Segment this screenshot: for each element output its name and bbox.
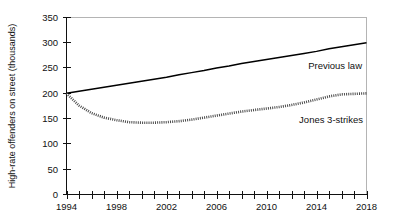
x-tick-label-1998: 1998 bbox=[106, 201, 127, 212]
x-tick-label-2010: 2010 bbox=[256, 201, 277, 212]
x-tick-label-2006: 2006 bbox=[206, 201, 227, 212]
chart-container: 0 50 100 150 200 250 300 350 High-rate o… bbox=[0, 0, 395, 223]
line-chart: 0 50 100 150 200 250 300 350 High-rate o… bbox=[0, 0, 395, 223]
x-tick-label-2014: 2014 bbox=[306, 201, 327, 212]
y-axis-title: High-rate offenders on street (thousands… bbox=[7, 24, 17, 188]
chart-background bbox=[0, 0, 395, 223]
y-tick-label-350: 350 bbox=[42, 12, 58, 23]
y-tick-label-100: 100 bbox=[42, 138, 58, 149]
x-tick-label-2002: 2002 bbox=[156, 201, 177, 212]
y-tick-label-200: 200 bbox=[42, 88, 58, 99]
series-label-previous-law: Previous law bbox=[308, 60, 362, 71]
x-tick-label-1994: 1994 bbox=[56, 201, 77, 212]
y-tick-label-50: 50 bbox=[47, 164, 58, 175]
y-tick-label-300: 300 bbox=[42, 37, 58, 48]
series-label-jones-3-strikes: Jones 3-strikes bbox=[299, 114, 363, 125]
y-tick-label-0: 0 bbox=[53, 189, 58, 200]
x-tick-label-2018: 2018 bbox=[356, 201, 377, 212]
y-tick-label-150: 150 bbox=[42, 113, 58, 124]
y-tick-label-250: 250 bbox=[42, 62, 58, 73]
